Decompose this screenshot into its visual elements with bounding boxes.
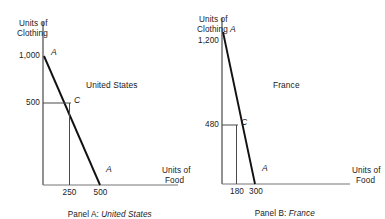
panel-b-x-axis-title-line2: Food (356, 176, 375, 186)
panel-a-x-axis-title-line2: Food (165, 176, 184, 186)
panel-b-ppf-line (223, 32, 255, 184)
panel-a-point-c-label: C (74, 96, 80, 106)
panel-a-ppf-line (44, 56, 100, 185)
panel-a-graphics (43, 22, 178, 185)
panel-b-caption-name: France (289, 209, 315, 218)
panel-a-c-x-label: 250 (55, 188, 84, 198)
ppf-figure: Units of Clothing 1,000 A 500 C United S… (0, 0, 385, 219)
panel-a-caption-prefix: Panel A: (68, 210, 99, 219)
panel-a-c-y-label: 500 (6, 98, 40, 108)
panel-b-c-y-label: 480 (185, 120, 219, 130)
panel-a-point-a-top-label: A (51, 48, 57, 58)
panel-b-y-axis-title-line1: Units of (199, 15, 228, 25)
panel-b-x-intercept-label: 300 (242, 187, 270, 197)
panel-a-region-label: United States (86, 81, 138, 91)
panel-a-caption: Panel A: United States (45, 200, 165, 219)
panel-a-x-axis-title-line1: Units of (162, 166, 191, 176)
panel-a-y-axis-title-line2: Clothing (17, 29, 48, 39)
panel-b-y-intercept-label: 1,200 (185, 36, 219, 46)
panel-b-region-label: France (273, 81, 300, 91)
panel-b-caption: Panel B: France (225, 199, 335, 219)
panel-a-y-intercept-label: 1,000 (6, 51, 40, 61)
panel-a-point-a-bottom-label: A (106, 165, 112, 175)
panel-b-point-c-label: C (241, 118, 247, 128)
panel-b-point-a-top-label: A (230, 25, 236, 35)
panel-b-x-axis-title-line1: Units of (352, 166, 381, 176)
panel-b-y-axis-title-line2: Clothing (197, 25, 228, 35)
panel-b-point-a-bottom-label: A (262, 164, 268, 174)
panel-a-y-axis-title-line1: Units of (19, 19, 48, 29)
panel-a-x-intercept-label: 500 (86, 188, 115, 198)
panel-a-caption-name: United States (101, 210, 151, 219)
panel-b-graphics (222, 18, 350, 184)
figure-canvas (0, 0, 385, 219)
panel-b-caption-prefix: Panel B: (255, 209, 287, 218)
